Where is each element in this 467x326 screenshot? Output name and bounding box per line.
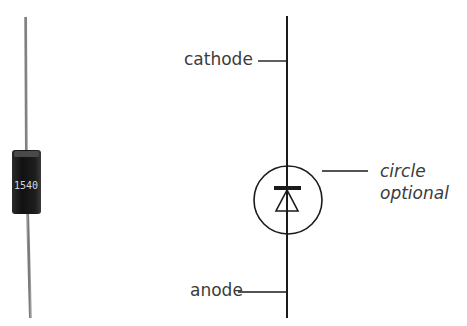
- cathode-bar-icon: [274, 186, 301, 190]
- anode-label: anode: [190, 280, 243, 300]
- circle-note-line2: optional: [380, 182, 449, 204]
- cathode-label: cathode: [184, 49, 253, 69]
- circle-note-line1: circle: [380, 160, 426, 182]
